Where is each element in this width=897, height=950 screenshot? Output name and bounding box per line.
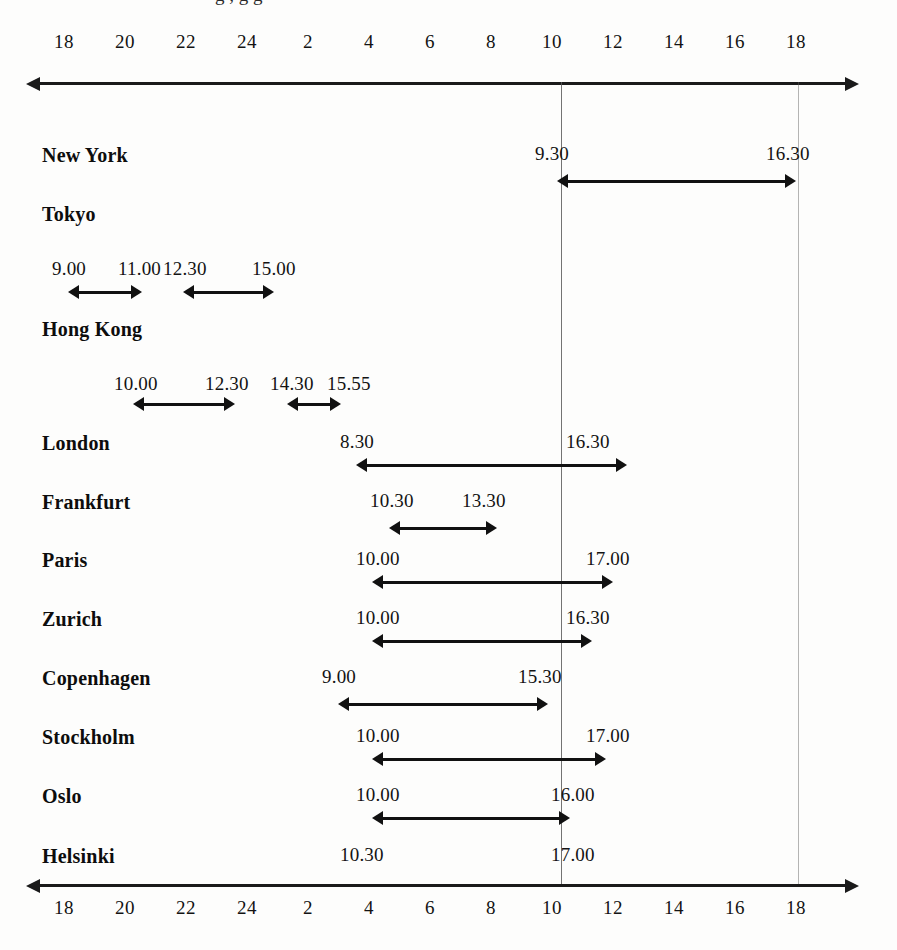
span-right-arrowhead — [330, 397, 341, 411]
cropped-heading-text: g , g g — [215, 0, 263, 6]
close-time-label-helsinki-0: 17.00 — [551, 844, 595, 866]
axis-tick-label: 6 — [410, 32, 450, 51]
session-span-oslo-0 — [372, 811, 570, 825]
span-bar — [192, 291, 265, 294]
close-time-label-london-0: 16.30 — [566, 431, 610, 453]
bottom-axis-line — [38, 884, 845, 887]
close-time-label-paris-0: 17.00 — [586, 548, 630, 570]
open-time-label-copenhagen-0: 9.00 — [322, 666, 356, 688]
session-span-hong-kong-1 — [287, 397, 341, 411]
span-right-arrowhead — [131, 285, 142, 299]
session-span-tokyo-0 — [68, 285, 142, 299]
span-bar — [381, 758, 597, 761]
span-right-arrowhead — [486, 521, 497, 535]
open-time-label-frankfurt-0: 10.30 — [370, 490, 414, 512]
top-axis-left-arrowhead — [26, 77, 40, 91]
open-time-label-zurich-0: 10.00 — [356, 607, 400, 629]
open-time-label-tokyo-0: 9.00 — [52, 258, 86, 280]
city-label-oslo: Oslo — [42, 785, 82, 808]
city-label-copenhagen: Copenhagen — [42, 667, 151, 690]
span-bar — [365, 464, 618, 467]
span-bar — [398, 527, 488, 530]
session-span-stockholm-0 — [372, 752, 606, 766]
close-time-label-new-york-0: 16.30 — [766, 143, 810, 165]
axis-tick-label: 12 — [593, 898, 633, 917]
axis-tick-label: 6 — [410, 898, 450, 917]
axis-tick-label: 14 — [654, 898, 694, 917]
axis-tick-label: 4 — [349, 898, 389, 917]
span-right-arrowhead — [785, 174, 796, 188]
cropped-heading-row: g , g g — [0, 0, 897, 10]
span-right-arrowhead — [263, 285, 274, 299]
span-right-arrowhead — [602, 575, 613, 589]
axis-tick-label: 10 — [532, 32, 572, 51]
open-time-label-new-york-0: 9.30 — [535, 143, 569, 165]
axis-tick-label: 22 — [166, 898, 206, 917]
span-right-arrowhead — [595, 752, 606, 766]
axis-tick-label: 2 — [288, 32, 328, 51]
top-axis-line — [38, 82, 845, 85]
axis-tick-label: 8 — [471, 32, 511, 51]
axis-tick-label: 4 — [349, 32, 389, 51]
axis-tick-label: 14 — [654, 32, 694, 51]
axis-tick-label: 16 — [715, 898, 755, 917]
span-bar — [381, 817, 561, 820]
span-bar — [77, 291, 133, 294]
city-label-zurich: Zurich — [42, 608, 102, 631]
bottom-axis-left-arrowhead — [26, 879, 40, 893]
close-time-label-tokyo-1: 15.00 — [252, 258, 296, 280]
close-time-label-hong-kong-1: 15.55 — [327, 373, 371, 395]
city-label-frankfurt: Frankfurt — [42, 491, 130, 514]
top-axis-right-arrowhead — [845, 77, 859, 91]
gmt-17-line — [798, 82, 799, 884]
open-time-label-london-0: 8.30 — [340, 431, 374, 453]
axis-tick-label: 20 — [105, 32, 145, 51]
session-span-london-0 — [356, 458, 627, 472]
city-label-stockholm: Stockholm — [42, 726, 135, 749]
span-bar — [347, 703, 539, 706]
session-span-frankfurt-0 — [389, 521, 497, 535]
open-time-label-paris-0: 10.00 — [356, 548, 400, 570]
close-time-label-hong-kong-0: 12.30 — [205, 373, 249, 395]
axis-tick-label: 20 — [105, 898, 145, 917]
axis-tick-label: 24 — [227, 32, 267, 51]
axis-tick-label: 22 — [166, 32, 206, 51]
open-time-label-hong-kong-1: 14.30 — [270, 373, 314, 395]
span-right-arrowhead — [581, 634, 592, 648]
axis-tick-label: 18 — [776, 32, 816, 51]
axis-tick-label: 16 — [715, 32, 755, 51]
axis-tick-label: 2 — [288, 898, 328, 917]
session-span-hong-kong-0 — [133, 397, 235, 411]
close-time-label-frankfurt-0: 13.30 — [462, 490, 506, 512]
session-span-copenhagen-0 — [338, 697, 548, 711]
span-bar — [381, 640, 583, 643]
close-time-label-zurich-0: 16.30 — [566, 607, 610, 629]
city-label-paris: Paris — [42, 549, 87, 572]
axis-tick-label: 10 — [532, 898, 572, 917]
bottom-axis-right-arrowhead — [845, 879, 859, 893]
city-label-new-york: New York — [42, 144, 128, 167]
axis-tick-label: 18 — [44, 32, 84, 51]
axis-tick-label: 18 — [44, 898, 84, 917]
open-time-label-stockholm-0: 10.00 — [356, 725, 400, 747]
span-right-arrowhead — [616, 458, 627, 472]
close-time-label-oslo-0: 16.00 — [551, 784, 595, 806]
open-time-label-tokyo-1: 12.30 — [163, 258, 207, 280]
city-label-london: London — [42, 432, 110, 455]
close-time-label-stockholm-0: 17.00 — [586, 725, 630, 747]
axis-tick-label: 12 — [593, 32, 633, 51]
session-span-paris-0 — [372, 575, 613, 589]
span-right-arrowhead — [537, 697, 548, 711]
span-bar — [142, 403, 226, 406]
axis-tick-label: 18 — [776, 898, 816, 917]
axis-tick-label: 8 — [471, 898, 511, 917]
open-time-label-oslo-0: 10.00 — [356, 784, 400, 806]
close-time-label-copenhagen-0: 15.30 — [518, 666, 562, 688]
span-right-arrowhead — [559, 811, 570, 825]
city-label-tokyo: Tokyo — [42, 203, 96, 226]
span-right-arrowhead — [224, 397, 235, 411]
city-label-helsinki: Helsinki — [42, 845, 115, 868]
open-time-label-hong-kong-0: 10.00 — [114, 373, 158, 395]
city-label-hong-kong: Hong Kong — [42, 318, 142, 341]
session-span-zurich-0 — [372, 634, 592, 648]
